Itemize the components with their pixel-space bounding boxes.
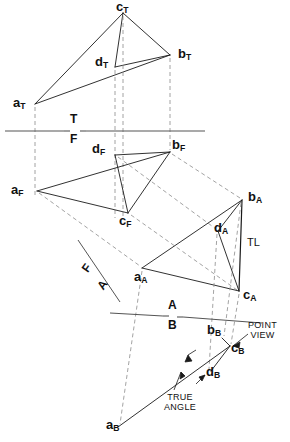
projectors-aux-a-to-aux-b (120, 203, 241, 424)
fold-label-F: F (70, 133, 77, 145)
point-view-line2: VIEW (248, 330, 277, 340)
aux-a-view-edges (142, 200, 242, 291)
point-label-dF: dF (92, 142, 105, 155)
projection-diagram (0, 0, 290, 442)
projector-cA-cB (231, 294, 239, 344)
edge-dF-cF (115, 155, 128, 213)
edge-aA-cA (142, 268, 239, 291)
fold-AB-left (110, 313, 163, 316)
point-label-aT: aT (13, 96, 25, 109)
true-angle-arrowhead-upper (185, 355, 192, 362)
point-view-label: POINT VIEW (248, 320, 277, 340)
point-label-cA: cA (243, 288, 256, 301)
aux-b-view-edges (118, 338, 230, 427)
edge-aB-cB (118, 346, 230, 427)
edge-aT-cT (35, 13, 123, 104)
edge-cT-bT (123, 13, 170, 55)
point-label-bF: bF (172, 138, 185, 151)
edge-dA-cA (218, 231, 239, 291)
true-angle-line2: ANGLE (152, 402, 208, 412)
edge-bF-cF (128, 152, 170, 213)
point-label-dT: dT (95, 55, 108, 68)
projector-dF-dA (118, 157, 216, 229)
point-label-bT: bT (178, 47, 191, 60)
edge-aF-cF (37, 191, 128, 213)
point-label-bA: bA (248, 190, 262, 203)
projectors-top-to-front (35, 16, 170, 218)
true-angle-tick-upper (188, 350, 196, 355)
point-label-dB: dB (206, 365, 220, 378)
projector-aA-aB (120, 271, 142, 424)
point-label-dA: dA (214, 221, 228, 234)
fold-line-AB (110, 313, 262, 323)
true-angle-leader-left (174, 372, 181, 390)
fold-label-B: B (168, 319, 177, 331)
fold-label-T: T (70, 113, 77, 125)
true-angle-line1: TRUE (152, 392, 208, 402)
edge-cB-bB (222, 338, 230, 346)
front-view-edges (37, 152, 170, 213)
point-label-cT: cT (116, 0, 128, 13)
true-angle-arrowhead-left (180, 372, 185, 379)
true-angle-label: TRUE ANGLE (152, 392, 208, 412)
drawing-canvas: aT bT cT dT aF bF cF dF aA bA cA dA aB b… (0, 0, 290, 442)
point-label-aF: aF (11, 183, 23, 196)
projector-bF-bA (172, 154, 240, 198)
edge-cT-dT (115, 13, 123, 67)
edge-aF-bF (37, 152, 170, 191)
point-label-cF: cF (119, 214, 131, 227)
projector-dA-dB (209, 234, 217, 369)
point-view-line1: POINT (248, 320, 277, 330)
point-label-aA: aA (134, 270, 147, 283)
fold-label-A: A (168, 299, 177, 311)
point-label-aB: aB (106, 418, 119, 431)
point-label-cB: cB (231, 341, 244, 354)
point-label-bB: bB (207, 323, 221, 336)
true-length-label: TL (247, 237, 260, 248)
